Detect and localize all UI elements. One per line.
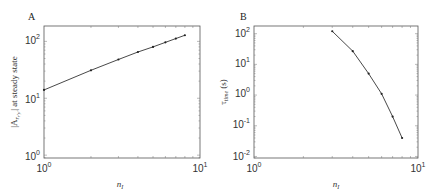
panel-a-ytick-1: 101	[25, 92, 40, 105]
panel-a-xlabel: nI	[117, 179, 125, 190]
panel-b-axes-box	[254, 26, 418, 158]
panel-a-ytick-0: 100	[25, 149, 40, 162]
panel-a-letter: A	[28, 11, 36, 22]
panel-b-xtick-1: 101	[410, 161, 425, 174]
panel-a: A 102 101 100 100 101 nI |Arr'y'| at ste…	[9, 11, 208, 190]
panel-b-xtick-0: 100	[246, 161, 261, 174]
panel-b-series-line	[332, 31, 402, 138]
panel-a-ytick-2: 102	[25, 33, 40, 46]
panel-b-ylabel: τtime (s)	[218, 79, 229, 105]
panel-b-ytick-m2: 10-2	[233, 149, 250, 162]
panel-b-xlabel: nI	[333, 179, 341, 190]
panel-a-xtick-0: 100	[36, 161, 51, 174]
panel-b-letter: B	[240, 11, 247, 22]
panel-a-series-line	[44, 35, 185, 90]
panel-a-ylabel: |Arr'y'| at steady state	[9, 56, 21, 128]
panel-a-xtick-1: 101	[192, 161, 207, 174]
figure: A 102 101 100 100 101 nI |Arr'y'| at ste…	[0, 0, 437, 192]
panel-b-ytick-2: 102	[235, 26, 250, 39]
panel-b-ytick-1: 101	[235, 56, 250, 69]
panel-b-ytick-m1: 10-1	[233, 117, 250, 130]
panel-b-markers	[331, 30, 403, 139]
panel-b-ytick-0: 100	[235, 86, 250, 99]
panel-b: B 102 101 100 10-1 10-2 100 101 nI τtime…	[218, 11, 426, 190]
panel-a-markers	[43, 34, 186, 91]
panel-a-axes-box	[44, 26, 200, 158]
